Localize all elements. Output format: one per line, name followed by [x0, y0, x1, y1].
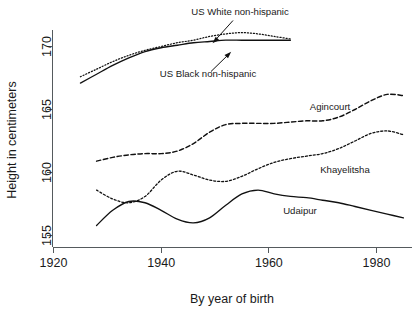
series-agincourt: [97, 94, 404, 161]
arrowhead-us-white: [213, 37, 220, 43]
label-agincourt: Agincourt: [310, 101, 351, 112]
x-tick-label-1980: 1980: [363, 256, 391, 270]
leader-us-white: [215, 21, 234, 42]
callout-leaders: [211, 21, 233, 72]
series-curves: [80, 33, 403, 226]
label-us-white-non-hispanic: US White non-hispanic: [191, 6, 289, 17]
x-ticks: [54, 248, 377, 254]
y-tick-labels: 170 165 160 155: [40, 36, 54, 246]
y-tick-label-165: 165: [40, 99, 54, 120]
y-ticks: [47, 47, 53, 236]
x-tick-label-1940: 1940: [147, 256, 175, 270]
y-tick-label-170: 170: [40, 36, 54, 57]
series-udaipur: [97, 190, 404, 225]
chart-canvas: 170 165 160 155 1920 1940 1960 1980 Heig…: [0, 0, 419, 320]
x-tick-label-1920: 1920: [40, 256, 68, 270]
x-axis-title: By year of birth: [190, 292, 274, 306]
y-axis-title: Height in centimeters: [5, 81, 19, 198]
x-tick-labels: 1920 1940 1960 1980: [40, 256, 391, 270]
label-us-black-non-hispanic: US Black non-hispanic: [160, 68, 257, 79]
x-tick-label-1960: 1960: [255, 256, 283, 270]
label-udaipur: Udaipur: [283, 205, 317, 216]
y-tick-label-160: 160: [40, 162, 54, 183]
series-labels: US White non-hispanic US Black non-hispa…: [160, 6, 371, 216]
chart-figure: 170 165 160 155 1920 1940 1960 1980 Heig…: [0, 0, 419, 320]
label-khayelitsha: Khayelitsha: [320, 164, 370, 175]
y-tick-label-155: 155: [40, 225, 54, 246]
